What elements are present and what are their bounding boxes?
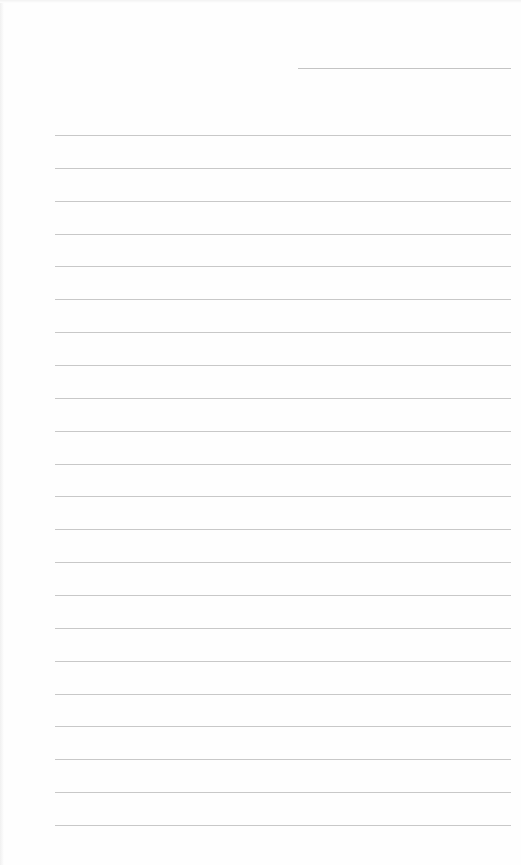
ruled-line xyxy=(55,168,511,169)
ruled-line xyxy=(55,529,511,530)
ruled-line xyxy=(55,365,511,366)
ruled-line xyxy=(55,464,511,465)
ruled-line xyxy=(55,332,511,333)
header-date-line xyxy=(298,68,511,69)
ruled-line xyxy=(55,234,511,235)
ruled-line xyxy=(55,135,511,136)
ruled-line xyxy=(55,562,511,563)
ruled-line xyxy=(55,661,511,662)
page-edge-shadow xyxy=(0,0,4,865)
lined-paper-page xyxy=(0,0,521,865)
ruled-line xyxy=(55,694,511,695)
ruled-line xyxy=(55,431,511,432)
ruled-line xyxy=(55,266,511,267)
ruled-line xyxy=(55,628,511,629)
ruled-line xyxy=(55,595,511,596)
ruled-line xyxy=(55,398,511,399)
ruled-line xyxy=(55,496,511,497)
page-top-shadow xyxy=(0,0,521,3)
ruled-line xyxy=(55,299,511,300)
ruled-line xyxy=(55,201,511,202)
ruled-line xyxy=(55,726,511,727)
ruled-line xyxy=(55,825,511,826)
ruled-line xyxy=(55,759,511,760)
ruled-line xyxy=(55,792,511,793)
